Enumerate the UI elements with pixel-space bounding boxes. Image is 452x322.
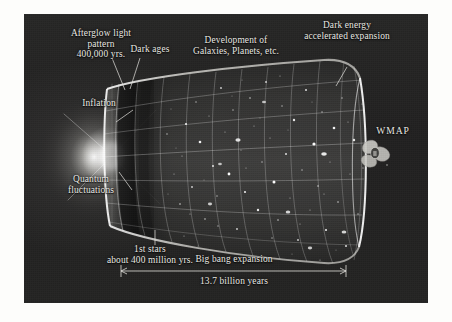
scale-bar bbox=[121, 265, 346, 277]
spacetime-cone bbox=[104, 54, 369, 269]
diagram-artwork bbox=[24, 14, 428, 303]
figure-root: Afterglow light pattern 400,000 yrs. Dar… bbox=[0, 0, 452, 322]
diagram-panel: Afterglow light pattern 400,000 yrs. Dar… bbox=[24, 14, 428, 303]
